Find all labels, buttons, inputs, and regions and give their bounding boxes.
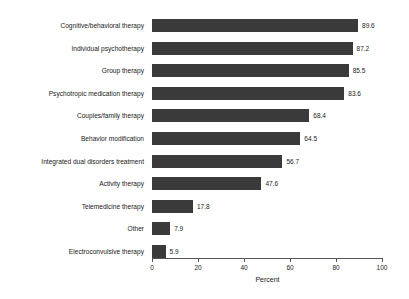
category-label: Electroconvulsive therapy [69,245,144,258]
bar-value-label: 87.2 [357,42,370,55]
bar-row: 89.6 [152,19,375,32]
bar-value-label: 17.8 [197,200,210,213]
plot-area: 89.687.285.583.668.464.556.747.617.87.95… [152,12,382,258]
bar [152,42,353,55]
bar [152,222,170,235]
bar-row: 56.7 [152,155,299,168]
bar-value-label: 56.7 [286,155,299,168]
bar-row: 83.6 [152,87,361,100]
category-label: Couples/family therapy [77,109,144,122]
x-tick-label: 80 [332,264,339,271]
category-label: Integrated dual disorders treatment [41,155,144,168]
bar-row: 68.4 [152,109,326,122]
category-label: Psychotropic medication therapy [49,87,144,100]
x-tick-label: 0 [150,264,154,271]
bar-value-label: 47.6 [265,177,278,190]
bar-value-label: 5.9 [170,245,179,258]
bar-value-label: 68.4 [313,109,326,122]
bar-row: 85.5 [152,64,365,77]
bar [152,245,166,258]
bar-value-label: 7.9 [174,222,183,235]
x-tick-mark [244,258,245,262]
category-label: Cognitive/behavioral therapy [60,19,144,32]
bar [152,200,193,213]
bar-chart: Cognitive/behavioral therapyIndividual p… [0,0,409,299]
category-axis-labels: Cognitive/behavioral therapyIndividual p… [0,12,148,258]
bar-value-label: 89.6 [362,19,375,32]
bar-value-label: 85.5 [353,64,366,77]
bar-row: 17.8 [152,200,210,213]
bar [152,155,282,168]
bar-value-label: 83.6 [348,87,361,100]
x-tick-label: 100 [377,264,388,271]
x-tick-label: 40 [240,264,247,271]
x-tick-mark [382,258,383,262]
bar-row: 47.6 [152,177,278,190]
bar [152,87,344,100]
bar-row: 87.2 [152,42,369,55]
bar-row: 7.9 [152,222,183,235]
bar-value-label: 64.5 [304,132,317,145]
x-axis-title: Percent [152,276,383,283]
bar [152,132,300,145]
bar-row: 64.5 [152,132,317,145]
x-tick-label: 60 [286,264,293,271]
x-axis-line [152,258,383,259]
x-tick-label: 20 [194,264,201,271]
category-label: Group therapy [102,64,144,77]
x-tick-mark [336,258,337,262]
bar [152,109,309,122]
bar-row: 5.9 [152,245,179,258]
category-label: Activity therapy [99,177,144,190]
category-label: Individual psychotherapy [71,42,144,55]
bar [152,64,349,77]
category-label: Telemedicine therapy [82,200,144,213]
category-label: Behavior modification [81,132,144,145]
x-tick-mark [198,258,199,262]
category-label: Other [128,222,145,235]
x-tick-mark [290,258,291,262]
x-tick-mark [152,258,153,262]
bar [152,19,358,32]
bar [152,177,261,190]
